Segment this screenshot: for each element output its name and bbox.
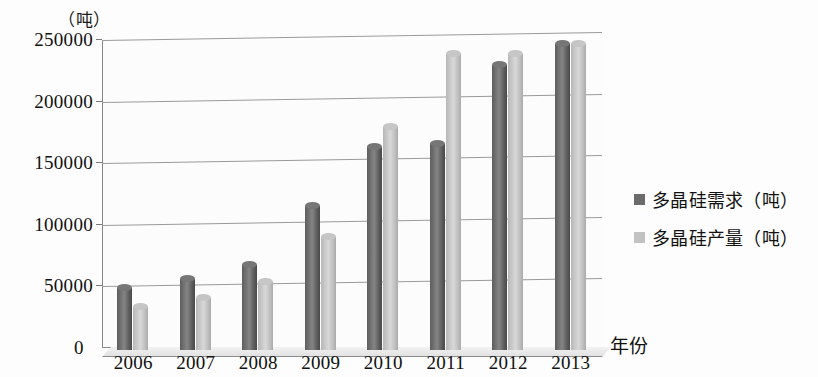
bar-body xyxy=(446,54,461,350)
bar-demand-2011 xyxy=(430,144,445,350)
x-axis-tick-label: 2007 xyxy=(176,352,215,374)
bar-body xyxy=(367,147,382,350)
bar-group xyxy=(165,40,228,348)
y-axis-tick-label: 100000 xyxy=(34,213,93,235)
bar-demand-2010 xyxy=(367,147,382,350)
x-axis-tick-label: 2010 xyxy=(364,352,403,374)
bar-top-cap xyxy=(305,202,320,209)
bar-top-cap xyxy=(367,143,382,150)
x-axis-tick-label: 2006 xyxy=(114,352,153,374)
bar-output-2013 xyxy=(571,44,586,350)
chart-legend: 多晶硅需求（吨） 多晶硅产量（吨） xyxy=(634,186,814,262)
x-axis-tick-label: 2009 xyxy=(301,352,340,374)
bar-output-2007 xyxy=(196,298,211,350)
bar-body xyxy=(383,127,398,350)
bar-demand-2006 xyxy=(117,288,132,350)
y-axis-unit-caption: （吨） xyxy=(58,6,111,31)
bar-top-cap xyxy=(133,303,148,310)
y-axis-tick-label: 50000 xyxy=(44,275,93,297)
bar-group xyxy=(415,40,478,348)
bar-body xyxy=(492,65,507,350)
bar-group xyxy=(290,40,353,348)
bar-demand-2007 xyxy=(180,279,195,350)
bar-body xyxy=(117,288,132,350)
legend-swatch-output-icon xyxy=(634,232,645,243)
x-axis-tick-labels: 20062007200820092010201120122013 xyxy=(102,352,602,377)
bar-body xyxy=(321,237,336,350)
bar-body xyxy=(196,298,211,350)
y-axis-tick-label: 150000 xyxy=(34,152,93,174)
bar-body xyxy=(508,54,523,350)
plot-area: 25000020000015000010000050000 xyxy=(102,40,602,348)
legend-label-output: 多晶硅产量（吨） xyxy=(652,224,798,250)
bar-output-2008 xyxy=(258,282,273,350)
legend-item-demand: 多晶硅需求（吨） xyxy=(634,186,814,212)
x-axis-tick-label: 2011 xyxy=(427,352,466,374)
y-axis-zero-label: 0 xyxy=(74,337,84,359)
bar-output-2012 xyxy=(508,54,523,350)
legend-label-demand: 多晶硅需求（吨） xyxy=(652,186,798,212)
bars-layer xyxy=(102,40,602,348)
x-axis-tick-label: 2008 xyxy=(239,352,278,374)
bar-demand-2012 xyxy=(492,65,507,350)
x-axis-tick-label: 2013 xyxy=(551,352,590,374)
bar-group xyxy=(227,40,290,348)
bar-body xyxy=(242,265,257,350)
bar-group xyxy=(102,40,165,348)
legend-item-output: 多晶硅产量（吨） xyxy=(634,224,814,250)
bar-body xyxy=(555,44,570,350)
bar-output-2011 xyxy=(446,54,461,350)
x-axis-title: 年份 xyxy=(610,331,648,358)
polysilicon-bar-chart: （吨） 25000020000015000010000050000 0 2006… xyxy=(0,0,818,377)
bar-output-2010 xyxy=(383,127,398,350)
bar-demand-2008 xyxy=(242,265,257,350)
bar-group xyxy=(352,40,415,348)
bar-demand-2013 xyxy=(555,44,570,350)
bar-body xyxy=(430,144,445,350)
bar-top-cap xyxy=(321,233,336,240)
bar-group xyxy=(540,40,603,348)
bar-output-2006 xyxy=(133,307,148,350)
legend-swatch-demand-icon xyxy=(634,194,645,205)
bar-body xyxy=(571,44,586,350)
bar-top-cap xyxy=(180,275,195,282)
y-axis-tick-label: 250000 xyxy=(34,29,93,51)
bar-demand-2009 xyxy=(305,206,320,350)
y-axis-tick-label: 200000 xyxy=(34,90,93,112)
bar-group xyxy=(477,40,540,348)
bar-body xyxy=(258,282,273,350)
bar-body xyxy=(133,307,148,350)
bar-body xyxy=(305,206,320,350)
bar-body xyxy=(180,279,195,350)
bar-output-2009 xyxy=(321,237,336,350)
x-axis-tick-label: 2012 xyxy=(489,352,528,374)
